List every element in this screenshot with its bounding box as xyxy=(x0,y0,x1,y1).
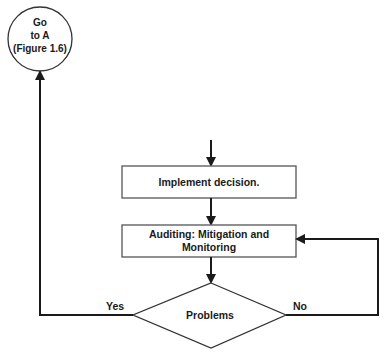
yes-label: Yes xyxy=(106,300,124,312)
goto-a-line-1: Go xyxy=(33,17,47,28)
auditing-line-1: Auditing: Mitigation and xyxy=(149,228,269,240)
goto-a-line-2: to A xyxy=(30,30,49,41)
auditing-line-2: Monitoring xyxy=(182,241,236,253)
auditing-box: Auditing: Mitigation and Monitoring xyxy=(122,225,296,257)
flowchart: Go to A (Figure 1.6) Implement decision.… xyxy=(0,0,387,353)
implement-decision-box: Implement decision. xyxy=(122,166,296,198)
implement-decision-label: Implement decision. xyxy=(159,176,260,188)
goto-a-line-3: (Figure 1.6) xyxy=(13,43,67,54)
goto-a-connector: Go to A (Figure 1.6) xyxy=(8,7,72,71)
problems-decision: Problems xyxy=(133,283,286,348)
no-label: No xyxy=(293,300,307,312)
yes-edge xyxy=(40,72,133,315)
problems-label: Problems xyxy=(186,309,234,321)
